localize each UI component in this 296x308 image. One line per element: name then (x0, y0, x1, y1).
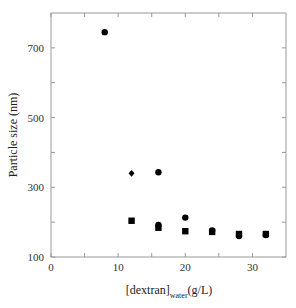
axis-ticks: 0102030100300500700 (28, 13, 287, 273)
x-tick-label: 10 (113, 261, 125, 273)
circle-marker (182, 214, 188, 220)
circle-marker (102, 29, 108, 35)
square-marker (182, 228, 188, 234)
plot-frame (51, 13, 286, 257)
x-axis-label: [dextran]water(g/L) (126, 283, 212, 300)
x-tick-label: 0 (48, 261, 54, 273)
square-marker (263, 231, 269, 237)
x-axis-label-subscript: water (170, 291, 188, 300)
square-marker (209, 229, 215, 235)
square-marker (128, 218, 134, 224)
diamond-marker (129, 170, 135, 177)
scatter-chart: 0102030100300500700 Particle size (nm) [… (0, 0, 296, 308)
y-tick-label: 700 (28, 42, 45, 54)
square-marker (155, 225, 161, 231)
y-tick-label: 500 (28, 112, 45, 124)
plot-border (51, 13, 286, 257)
y-tick-label: 100 (28, 251, 45, 263)
x-axis-label-unit: (g/L) (188, 283, 213, 297)
x-axis-label-main: [dextran] (126, 283, 170, 297)
circle-marker (155, 169, 161, 175)
square-marker (236, 231, 242, 237)
x-tick-label: 20 (180, 261, 192, 273)
y-axis-label: Particle size (nm) (6, 93, 20, 178)
y-tick-label: 300 (28, 181, 45, 193)
data-points (102, 29, 270, 239)
x-tick-label: 30 (247, 261, 259, 273)
